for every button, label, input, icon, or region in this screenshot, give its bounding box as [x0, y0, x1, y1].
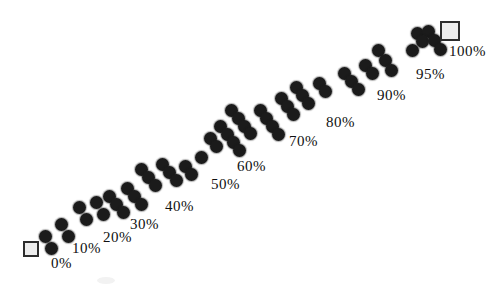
percent-label-10: 10% — [72, 241, 101, 256]
percent-label-50: 50% — [211, 177, 240, 192]
percent-label-40: 40% — [165, 199, 194, 214]
percent-labels-layer: 0%10%20%30%40%50%60%70%80%90%95%100% — [0, 0, 498, 288]
percent-label-100: 100% — [449, 44, 486, 59]
percentage-dot-scale-figure: 0%10%20%30%40%50%60%70%80%90%95%100% — [0, 0, 498, 288]
percent-label-20: 20% — [103, 230, 132, 245]
percent-label-0: 0% — [51, 256, 72, 271]
percent-label-90: 90% — [377, 88, 406, 103]
percent-label-60: 60% — [237, 159, 266, 174]
percent-label-70: 70% — [289, 134, 318, 149]
smudge-artifact — [97, 277, 115, 284]
percent-label-95: 95% — [416, 67, 445, 82]
percent-label-80: 80% — [326, 115, 355, 130]
percent-label-30: 30% — [130, 217, 159, 232]
